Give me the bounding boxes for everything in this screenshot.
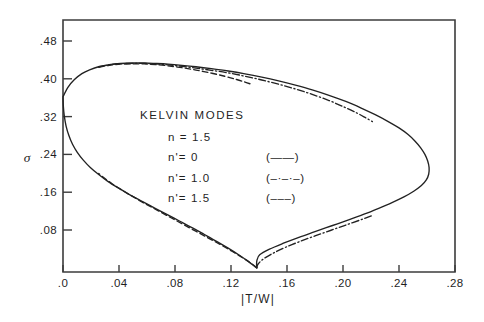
y-tick-label: .32 bbox=[40, 111, 57, 123]
y-tick-label: .08 bbox=[40, 224, 57, 236]
legend-key-dashed: (–––) bbox=[266, 192, 296, 204]
y-tick-label: .40 bbox=[40, 73, 57, 85]
x-tick-label: .28 bbox=[446, 277, 463, 289]
legend-annotation: n'= 1.5 bbox=[168, 192, 210, 204]
x-tick-label: .08 bbox=[166, 277, 183, 289]
x-axis-title: |T/W| bbox=[241, 292, 275, 306]
legend-annotation: n'= 1.0 bbox=[168, 172, 210, 184]
legend-annotation: n'= 0 bbox=[168, 151, 198, 163]
chart-background bbox=[0, 0, 484, 322]
y-tick-label: .24 bbox=[40, 148, 57, 160]
x-tick-label: .04 bbox=[110, 277, 127, 289]
x-tick-label: .24 bbox=[390, 277, 407, 289]
figure-container: .0.04.08.12.16.20.24.28 .08.16.24.32.40.… bbox=[0, 0, 484, 322]
y-tick-label: .48 bbox=[40, 35, 57, 47]
legend-annotation: n = 1.5 bbox=[168, 131, 211, 143]
x-tick-label: .16 bbox=[278, 277, 295, 289]
kelvin-modes-chart: .0.04.08.12.16.20.24.28 .08.16.24.32.40.… bbox=[0, 0, 484, 322]
x-tick-label: .12 bbox=[222, 277, 239, 289]
legend-key-solid: (——) bbox=[266, 151, 299, 163]
y-tick-label: .16 bbox=[40, 186, 57, 198]
x-tick-label: .0 bbox=[58, 277, 68, 289]
x-tick-label: .20 bbox=[334, 277, 351, 289]
legend-key-dashdot: (–·–·–) bbox=[266, 172, 305, 184]
legend-title: KELVIN MODES bbox=[140, 109, 245, 121]
